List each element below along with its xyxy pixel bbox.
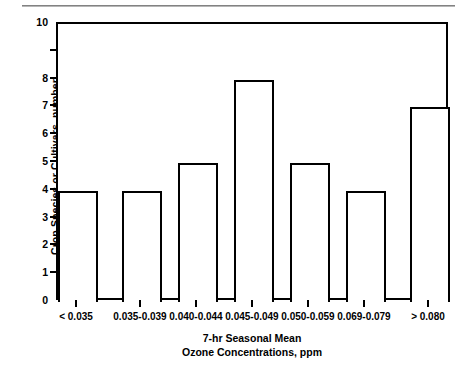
y-tick-label-2: 2 [14, 239, 48, 249]
x-category-label-7: > 0.080 [383, 311, 468, 323]
bar-1 [58, 191, 98, 302]
bars-container [58, 24, 450, 302]
x-axis-title-line1: 7-hr Seasonal Mean [56, 331, 448, 345]
bar-3 [178, 163, 218, 302]
y-tick-label-1: 1 [14, 267, 48, 277]
x-tick-6 [363, 300, 365, 307]
bar-5 [290, 163, 330, 302]
y-tick-label-3: 3 [14, 212, 48, 222]
x-tick-7 [427, 300, 429, 307]
histogram-figure: Crop Species or Cultivars, number 012345… [0, 0, 468, 376]
x-tick-3 [195, 300, 197, 307]
y-tick-label-0: 0 [14, 295, 48, 305]
bar-2 [122, 191, 162, 302]
x-tick-4 [251, 300, 253, 307]
bar-7 [410, 107, 450, 302]
bar-4 [234, 80, 274, 302]
x-axis-title: 7-hr Seasonal Mean Ozone Concentrations,… [56, 331, 448, 359]
y-tick-label-5: 5 [14, 156, 48, 166]
x-tick-2 [139, 300, 141, 307]
y-tick-label-6: 6 [14, 128, 48, 138]
y-tick-label-7: 7 [14, 100, 48, 110]
x-tick-5 [307, 300, 309, 307]
bar-6 [346, 191, 386, 302]
y-tick-label-10: 10 [14, 17, 48, 27]
y-tick-label-4: 4 [14, 184, 48, 194]
y-tick-label-8: 8 [14, 73, 48, 83]
plot-area [56, 22, 448, 300]
x-axis-title-line2: Ozone Concentrations, ppm [56, 345, 448, 359]
x-tick-1 [75, 300, 77, 307]
